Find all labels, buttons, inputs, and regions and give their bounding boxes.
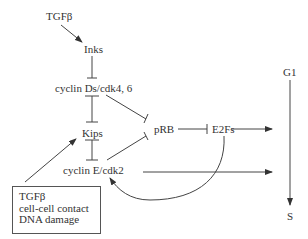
box-line-dna-damage: DNA damage xyxy=(13,214,100,226)
node-cyclin-e-cdk2: cyclin E/cdk2 xyxy=(63,164,124,176)
node-inks: Inks xyxy=(84,43,103,55)
label-g1: G1 xyxy=(283,66,296,78)
arrow-e2fs-cycline xyxy=(110,136,224,200)
arrow-tgfb-inks xyxy=(61,25,82,42)
node-prb: pRB xyxy=(154,123,174,135)
node-tgfb: TGFβ xyxy=(46,10,72,22)
cell-cycle-diagram: TGFβ Inks cyclin Ds/cdk4, 6 Kips cyclin … xyxy=(0,0,308,239)
node-kips: Kips xyxy=(82,127,103,139)
inhibitory-signals-box: TGFβ cell-cell contact DNA damage xyxy=(12,186,101,234)
box-line-tgfb: TGFβ xyxy=(13,187,100,203)
node-e2fs: E2Fs xyxy=(212,123,235,135)
inhibit-cyclind-prb xyxy=(106,95,146,119)
label-s: S xyxy=(287,210,293,222)
node-cyclin-d-cdk46: cyclin Ds/cdk4, 6 xyxy=(55,82,132,94)
inhibit-cycline-prb xyxy=(107,136,146,160)
